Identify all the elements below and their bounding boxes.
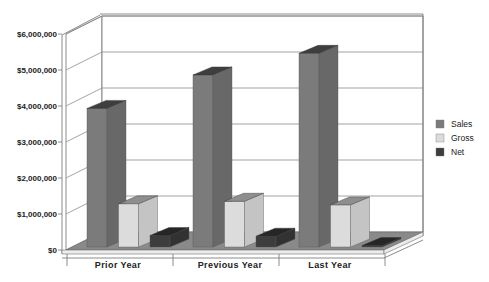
- legend-swatch: [436, 134, 444, 142]
- y-tick-label: $6,000,000: [17, 30, 58, 39]
- legend-item-net: Net: [436, 147, 465, 157]
- legend-swatch: [436, 148, 444, 156]
- legend: SalesGrossNet: [436, 119, 474, 157]
- y-tick-label: $3,000,000: [17, 138, 58, 147]
- y-tick-label: $0: [48, 246, 57, 255]
- floor-slab-front: [62, 250, 384, 254]
- bar-front-face: [331, 205, 351, 247]
- bar-gross-last-year: [331, 197, 370, 247]
- bar-front-face: [299, 53, 319, 247]
- y-tick-label: $5,000,000: [17, 66, 58, 75]
- bar-side-face: [351, 197, 370, 247]
- bar-front-face: [87, 108, 107, 247]
- legend-label: Sales: [451, 119, 472, 129]
- bar-front-face: [193, 75, 213, 247]
- legend-item-sales: Sales: [436, 119, 472, 129]
- bar-front-face: [362, 246, 382, 247]
- legend-label: Gross: [451, 133, 474, 143]
- legend-item-gross: Gross: [436, 133, 474, 143]
- bar-front-face: [150, 235, 170, 247]
- sales-gross-net-3d-bar-chart: $0$1,000,000$2,000,000$3,000,000$4,000,0…: [0, 0, 489, 282]
- y-tick-label: $2,000,000: [17, 174, 58, 183]
- bar-front-face: [256, 236, 276, 247]
- y-tick-label: $4,000,000: [17, 102, 58, 111]
- y-tick-label: $1,000,000: [17, 210, 58, 219]
- bar-front-face: [225, 201, 245, 247]
- legend-label: Net: [451, 147, 465, 157]
- bar-front-face: [119, 204, 139, 247]
- y-axis: $0$1,000,000$2,000,000$3,000,000$4,000,0…: [17, 30, 62, 255]
- legend-swatch: [436, 120, 444, 128]
- chart-container: $0$1,000,000$2,000,000$3,000,000$4,000,0…: [0, 0, 489, 282]
- x-category-label: Last Year: [308, 260, 352, 270]
- x-category-label: Prior Year: [95, 260, 141, 270]
- x-category-label: Previous Year: [198, 260, 263, 270]
